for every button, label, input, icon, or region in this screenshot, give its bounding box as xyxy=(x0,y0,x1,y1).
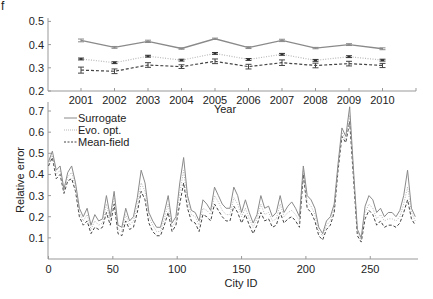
x-tick-label: 2009 xyxy=(337,94,361,106)
legend-label-mean-field: Mean-field xyxy=(78,136,129,148)
figure: f 0.20.30.40.5 2001200220032004200520062… xyxy=(0,0,433,299)
y-tick-label: 0.5 xyxy=(29,147,44,159)
legend-label-surrogate: Surrogate xyxy=(78,112,126,124)
y-tick-label: 0.2 xyxy=(29,85,44,97)
bottom-y-axis-label: Relative error xyxy=(14,147,26,213)
legend-label-evo-opt: Evo. opt. xyxy=(78,124,121,136)
x-tick-label: 150 xyxy=(232,263,250,275)
x-tick-label: 2010 xyxy=(370,94,394,106)
top-series xyxy=(78,38,386,73)
y-tick-label: 0.5 xyxy=(29,15,44,27)
y-tick-label: 0.6 xyxy=(29,126,44,138)
x-tick-label: 100 xyxy=(168,263,186,275)
x-tick-label: 200 xyxy=(297,263,315,275)
x-tick-label: 2001 xyxy=(69,94,93,106)
x-tick-label: 2006 xyxy=(236,94,260,106)
x-tick-label: 250 xyxy=(361,263,379,275)
x-tick-label: 2008 xyxy=(303,94,327,106)
y-tick-label: 0.3 xyxy=(29,62,44,74)
y-tick-label: 0.4 xyxy=(29,168,44,180)
top-chart-year-errors: 0.20.30.40.5 200120022003200420052006200… xyxy=(29,15,416,115)
series-line-evo-opt- xyxy=(81,53,383,62)
legend: Surrogate Evo. opt. Mean-field xyxy=(64,112,129,148)
bottom-chart-city-errors: 0.10.20.30.40.50.60.7 050100150200250 Ci… xyxy=(14,102,418,289)
top-x-axis-label: Year xyxy=(214,103,237,115)
x-tick-label: 2002 xyxy=(102,94,126,106)
series-line-mean-field xyxy=(81,61,383,71)
y-tick-label: 0.3 xyxy=(29,190,44,202)
y-tick-label: 0.1 xyxy=(29,232,44,244)
x-tick-label: 2007 xyxy=(270,94,294,106)
x-tick-label: 0 xyxy=(45,263,51,275)
series-line-surrogate xyxy=(81,39,383,49)
x-tick-label: 2004 xyxy=(169,94,193,106)
y-tick-label: 0.4 xyxy=(29,39,44,51)
bottom-x-axis-label: City ID xyxy=(225,277,258,289)
x-tick-label: 2003 xyxy=(136,94,160,106)
y-tick-label: 0.7 xyxy=(29,105,44,117)
x-tick-label: 50 xyxy=(107,263,119,275)
y-tick-label: 0.2 xyxy=(29,211,44,223)
panel-letter: f xyxy=(1,0,5,13)
